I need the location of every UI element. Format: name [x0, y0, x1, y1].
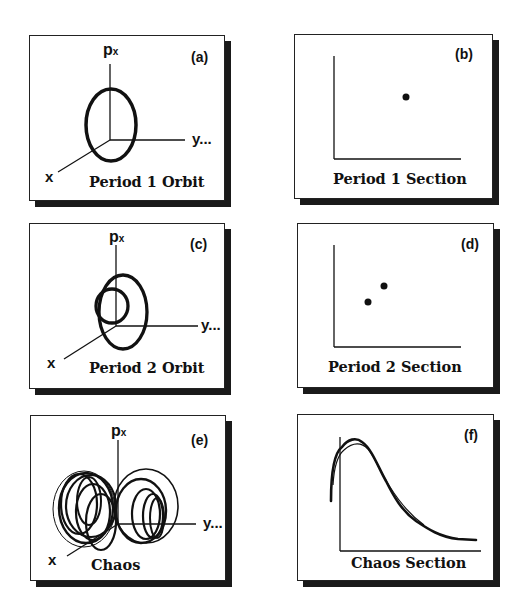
chaotic-trajectory [53, 469, 178, 550]
period2-outer-loop [99, 275, 147, 349]
panel-tag-b: (b) [455, 46, 473, 62]
caption-c: Period 2 Orbit [89, 359, 205, 376]
chaotic-attractor-scatter [333, 444, 424, 525]
caption-f: Chaos Section [351, 554, 466, 571]
caption-e: Chaos [91, 556, 140, 573]
axis-label-px: px [111, 422, 126, 440]
panel-tag-e: (e) [191, 432, 208, 448]
section-point-2 [365, 299, 372, 306]
panel-c-period2-orbit: px y... x (c) Period 2 Orbit [29, 223, 225, 389]
axis-label-x: x [45, 168, 53, 185]
axis-label-x: x [48, 551, 56, 568]
caption-a: Period 1 Orbit [89, 173, 205, 190]
chaotic-attractor-curve [331, 439, 476, 540]
caption-d: Period 2 Section [328, 358, 462, 375]
caption-b: Period 1 Section [333, 170, 467, 187]
panel-b-period1-section: (b) Period 1 Section [294, 34, 493, 199]
panel-d-period2-section: (d) Period 2 Section [297, 223, 494, 388]
axis-label-px: px [109, 228, 124, 246]
panel-tag-c: (c) [190, 236, 207, 252]
section-point-1 [381, 283, 388, 290]
panel-tag-f: (f) [464, 427, 478, 443]
axis-label-px: px [103, 41, 118, 59]
x-axis [58, 140, 110, 172]
panel-tag-d: (d) [461, 236, 479, 252]
axis-label-x: x [47, 354, 55, 371]
period1-loop [86, 89, 136, 161]
section-point [403, 94, 410, 101]
axis-label-y: y... [201, 316, 221, 333]
panel-tag-a: (a) [191, 49, 208, 65]
panel-f-chaos-section: (f) Chaos Section [297, 414, 494, 581]
axis-label-y: y... [192, 130, 212, 147]
panel-e-chaos: px y... x (e) Chaos [30, 415, 226, 581]
axis-label-y: y... [203, 514, 223, 531]
panel-a-period1-orbit: px y... x (a) Period 1 Orbit [29, 35, 225, 201]
